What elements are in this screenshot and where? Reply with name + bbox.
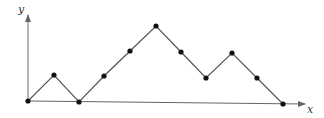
path-point [203, 75, 208, 80]
path-point [229, 50, 234, 55]
path-point [178, 49, 183, 54]
path-point [51, 72, 56, 77]
path-point [280, 101, 285, 106]
x-axis [28, 101, 305, 104]
path-point [101, 73, 106, 78]
y-axis-label: y [17, 3, 25, 16]
lattice-path-diagram: y x [0, 0, 324, 118]
lattice-path [28, 26, 283, 104]
x-axis-label: x [307, 103, 314, 116]
path-point [76, 99, 81, 104]
path-point [254, 75, 259, 80]
path-points [25, 23, 285, 106]
path-point [153, 23, 158, 28]
path-point [127, 48, 132, 53]
path-point [25, 98, 30, 103]
